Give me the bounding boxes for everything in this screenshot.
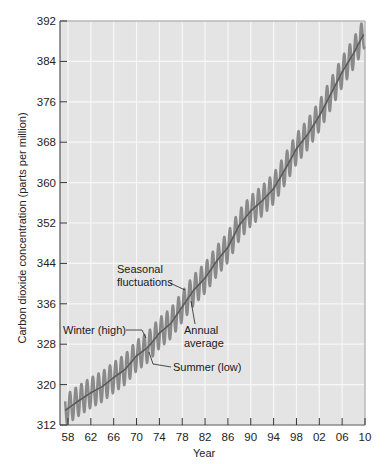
x-tick-label: 94 — [267, 431, 280, 443]
x-tick-label: 02 — [313, 431, 326, 443]
y-tick-label: 336 — [37, 298, 56, 310]
annotation-annual-line1: Annual — [184, 324, 218, 336]
x-tick-label: 74 — [153, 431, 166, 443]
y-tick-label: 368 — [37, 136, 56, 148]
y-tick-label: 392 — [37, 15, 56, 27]
x-tick-label: 06 — [336, 431, 349, 443]
x-tick-label: 58 — [62, 431, 75, 443]
x-tick-label: 78 — [176, 431, 189, 443]
y-tick-label: 352 — [37, 217, 56, 229]
x-tick-label: 10 — [359, 431, 372, 443]
y-axis-title: Carbon dioxide concentration (parts per … — [16, 112, 28, 343]
x-tick-label: 90 — [244, 431, 257, 443]
annotation-winter-label: Winter (high) — [63, 324, 126, 336]
y-tick-label: 320 — [37, 379, 56, 391]
x-tick-label: 66 — [107, 431, 120, 443]
y-tick-label: 384 — [37, 55, 57, 67]
y-tick-label: 344 — [37, 257, 57, 269]
co2-chart: 312320328336344352360368376384392 586266… — [0, 0, 388, 464]
y-tick-label: 328 — [37, 338, 56, 350]
y-tick-label: 376 — [37, 96, 56, 108]
x-tick-label: 62 — [84, 431, 97, 443]
annotation-annual-line2: average — [184, 337, 224, 349]
x-tick-label: 98 — [290, 431, 303, 443]
y-tick-label: 312 — [37, 419, 56, 431]
y-tick-label: 360 — [37, 177, 56, 189]
annotation-summer-label: Summer (low) — [173, 361, 241, 373]
annotation-seasonal-line1: Seasonal — [117, 263, 163, 275]
x-tick-label: 86 — [222, 431, 235, 443]
x-axis-title: Year — [193, 447, 216, 459]
x-tick-label: 70 — [130, 431, 143, 443]
x-tick-label: 82 — [199, 431, 212, 443]
annotation-seasonal-line2: fluctuations — [117, 276, 173, 288]
